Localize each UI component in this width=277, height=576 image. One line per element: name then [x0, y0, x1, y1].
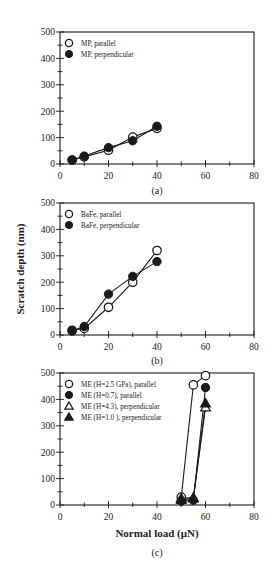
- y-tick-label: 200: [41, 107, 56, 117]
- y-tick-label: 200: [41, 278, 56, 288]
- x-axis-title: Normal load (μN): [115, 527, 199, 540]
- panel-a: 0100200300400500020406080MP, parallelMP,…: [41, 27, 259, 181]
- x-tick-label: 40: [152, 171, 162, 181]
- y-tick-label: 300: [41, 421, 56, 431]
- data-point: [68, 156, 76, 164]
- y-tick-label: 300: [41, 80, 56, 90]
- data-point: [201, 383, 209, 391]
- data-point: [189, 381, 197, 389]
- y-tick-label: 400: [41, 395, 56, 405]
- data-point: [153, 257, 161, 265]
- x-tick-label: 60: [201, 342, 211, 352]
- y-tick-label: 500: [41, 368, 56, 378]
- x-tick-label: 40: [152, 342, 162, 352]
- x-tick-label: 80: [249, 342, 259, 352]
- data-point: [104, 303, 112, 311]
- series-line: [72, 251, 157, 331]
- legend-label: ME (H=0.7), parallel: [81, 392, 142, 400]
- y-tick-label: 100: [41, 133, 56, 143]
- panel-b: 0100200300400500020406080BaFe, parallelB…: [41, 198, 259, 352]
- legend-marker-icon: [65, 380, 72, 387]
- legend-label: ME (H=4.3), perpendicular: [81, 403, 160, 411]
- data-point: [104, 143, 112, 151]
- legend-marker-icon: [65, 391, 72, 398]
- x-tick-label: 0: [58, 342, 63, 352]
- data-point: [201, 371, 209, 379]
- data-point: [68, 327, 76, 335]
- data-point: [129, 272, 137, 280]
- x-tick-label: 60: [201, 171, 211, 181]
- data-point: [153, 246, 161, 254]
- y-tick-label: 400: [41, 225, 56, 235]
- x-tick-label: 20: [104, 171, 114, 181]
- data-point: [153, 122, 161, 130]
- y-tick-label: 0: [50, 500, 55, 510]
- legend-marker-icon: [65, 402, 73, 409]
- legend-label: MP, perpendicular: [81, 51, 134, 59]
- legend-marker-icon: [65, 39, 72, 46]
- legend-label: BaFe, parallel: [81, 211, 121, 219]
- data-point: [104, 290, 112, 298]
- data-point: [80, 322, 88, 330]
- legend-marker-icon: [65, 413, 73, 420]
- data-point: [129, 137, 137, 145]
- legend-label: MP, parallel: [81, 40, 116, 48]
- y-tick-label: 100: [41, 474, 56, 484]
- y-tick-label: 300: [41, 251, 56, 261]
- x-tick-label: 80: [249, 512, 259, 522]
- caption-c: (c): [151, 547, 162, 559]
- legend-marker-icon: [65, 210, 72, 217]
- y-axis-title: Scratch depth (nm): [14, 223, 27, 314]
- figure: 0100200300400500020406080MP, parallelMP,…: [0, 0, 277, 576]
- x-tick-label: 0: [58, 512, 63, 522]
- x-tick-label: 20: [104, 342, 114, 352]
- y-tick-label: 500: [41, 27, 56, 37]
- legend-label: ME (H=2.5 GPa), parallel: [81, 381, 156, 389]
- caption-a: (a): [151, 185, 162, 197]
- x-tick-label: 40: [152, 512, 162, 522]
- x-tick-label: 80: [249, 171, 259, 181]
- y-tick-label: 500: [41, 198, 56, 208]
- series-line: [72, 262, 157, 331]
- x-tick-label: 20: [104, 512, 114, 522]
- y-tick-label: 400: [41, 54, 56, 64]
- data-point: [201, 399, 211, 407]
- caption-b: (b): [151, 355, 163, 367]
- panel-c: 0100200300400500020406080ME (H=2.5 GPa),…: [41, 368, 259, 522]
- x-tick-label: 60: [201, 512, 211, 522]
- legend-label: BaFe, perpendicular: [81, 222, 140, 230]
- y-tick-label: 0: [50, 330, 55, 340]
- legend-marker-icon: [65, 50, 72, 57]
- y-tick-label: 200: [41, 448, 56, 458]
- legend-label: ME (H=1.0 ), perpendicular: [81, 414, 162, 422]
- y-tick-label: 100: [41, 304, 56, 314]
- legend-marker-icon: [65, 221, 72, 228]
- x-tick-label: 0: [58, 171, 63, 181]
- y-tick-label: 0: [50, 159, 55, 169]
- data-point: [80, 152, 88, 160]
